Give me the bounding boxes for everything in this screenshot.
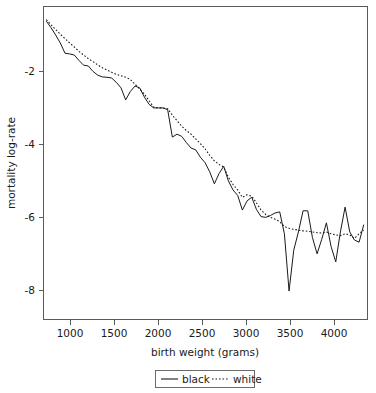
x-tick-label: 2000: [145, 327, 172, 339]
y-tick-label: -2: [25, 65, 35, 77]
legend-label-white: white: [233, 373, 262, 385]
line-chart-svg: -2 -4 -6 -8 mortality log-rate 1000 1500…: [0, 0, 376, 393]
legend-label-black: black: [182, 373, 211, 385]
legend: black white: [156, 371, 262, 388]
y-tick-label: -6: [25, 211, 36, 223]
y-tick-label: -8: [25, 284, 35, 296]
series-line-white: [46, 20, 363, 239]
y-axis-tick-labels: -2 -4 -6 -8: [25, 65, 36, 296]
x-axis-title: birth weight (grams): [151, 346, 259, 358]
x-tick-label: 3000: [233, 327, 260, 339]
chart-figure: -2 -4 -6 -8 mortality log-rate 1000 1500…: [0, 0, 376, 393]
y-axis-title: mortality log-rate: [5, 117, 17, 209]
data-series-group: [46, 20, 363, 291]
x-tick-label: 2500: [189, 327, 216, 339]
y-axis-ticks: [39, 72, 44, 291]
x-tick-label: 3500: [277, 327, 304, 339]
x-tick-label: 1000: [57, 327, 84, 339]
y-tick-label: -4: [25, 138, 36, 150]
x-axis-ticks: [71, 320, 335, 325]
x-tick-label: 1500: [101, 327, 128, 339]
x-axis-tick-labels: 1000 1500 2000 2500 3000 3500 4000: [57, 327, 348, 339]
x-tick-label: 4000: [321, 327, 348, 339]
